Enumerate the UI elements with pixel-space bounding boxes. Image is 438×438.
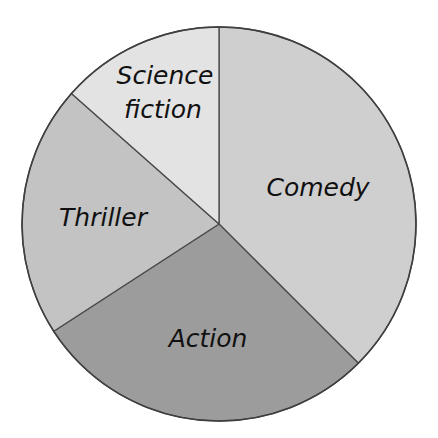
label-action: Action: [167, 324, 248, 353]
label-comedy: Comedy: [266, 173, 370, 202]
pie-chart-svg: Comedy Action Thriller Science fiction: [0, 0, 438, 438]
label-thriller: Thriller: [59, 203, 149, 232]
label-science-fiction-line2: fiction: [124, 95, 202, 124]
pie-chart: Comedy Action Thriller Science fiction: [0, 0, 438, 438]
label-science-fiction-line1: Science: [117, 61, 214, 90]
